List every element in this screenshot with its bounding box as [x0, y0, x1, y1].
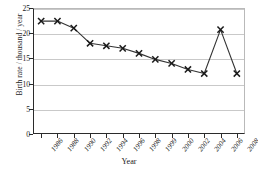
- x-tick-mark: [204, 134, 205, 138]
- y-tick-mark: [29, 33, 33, 34]
- gridline: [34, 110, 244, 111]
- x-tick-mark: [237, 134, 238, 138]
- x-tick-label: 1998: [148, 137, 163, 153]
- y-tick-mark: [29, 84, 33, 85]
- x-tick-mark: [123, 134, 124, 138]
- y-tick-label: 10: [0, 79, 30, 88]
- x-tick-mark: [139, 134, 140, 138]
- x-tick-mark: [106, 134, 107, 138]
- x-tick-label: 1990: [82, 137, 97, 153]
- x-tick-label: 1992: [99, 137, 114, 153]
- y-tick-label: 5: [0, 104, 30, 113]
- x-tick-label: 2006: [229, 137, 244, 153]
- x-tick-mark: [74, 134, 75, 138]
- gridline: [34, 9, 244, 10]
- y-tick-mark: [29, 134, 33, 135]
- plot-area: [33, 8, 245, 134]
- x-tick-label: 1999: [164, 137, 179, 153]
- y-tick-label: 0: [0, 130, 30, 139]
- x-tick-label: 1996: [131, 137, 146, 153]
- gridline: [34, 34, 244, 35]
- y-tick-label: 25: [0, 4, 30, 13]
- y-tick-mark: [29, 8, 33, 9]
- x-tick-mark: [90, 134, 91, 138]
- gridline: [34, 85, 244, 86]
- x-tick-mark: [41, 134, 42, 138]
- x-tick-mark: [155, 134, 156, 138]
- x-tick-mark: [172, 134, 173, 138]
- x-tick-label: 1994: [115, 137, 130, 153]
- x-tick-label: 1986: [50, 137, 65, 153]
- y-tick-label: 20: [0, 29, 30, 38]
- x-tick-label: 2004: [213, 137, 228, 153]
- x-tick-label: 1988: [66, 137, 81, 153]
- x-tick-mark: [188, 134, 189, 138]
- birth-rate-line-chart: Birth rate / thousand / year 05101520251…: [0, 0, 258, 171]
- y-tick-label: 15: [0, 54, 30, 63]
- x-tick-label: 2008: [245, 137, 258, 153]
- x-tick-mark: [57, 134, 58, 138]
- x-tick-label: 2002: [196, 137, 211, 153]
- y-tick-mark: [29, 58, 33, 59]
- gridline: [34, 59, 244, 60]
- x-tick-mark: [221, 134, 222, 138]
- x-tick-label: 2000: [180, 137, 195, 153]
- x-axis-title: Year: [0, 157, 258, 166]
- y-tick-mark: [29, 109, 33, 110]
